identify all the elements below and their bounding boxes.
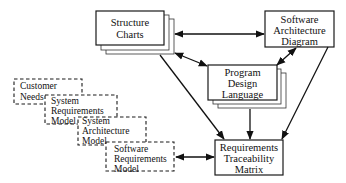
node-program-design-language: Program Design Language (208, 65, 286, 108)
label-structure-charts-2: Charts (116, 29, 143, 40)
node-requirements-traceability-matrix: Requirements Traceability Matrix (215, 140, 283, 175)
label-rtm-3: Matrix (235, 164, 264, 175)
label-pdl-3: Language (222, 89, 264, 100)
label-system-architecture-1: System (82, 116, 111, 126)
node-structure-charts: Structure Charts (96, 11, 174, 54)
label-software-architecture-2: Architecture (273, 25, 326, 36)
label-software-requirements-1: Software (114, 144, 148, 154)
label-software-requirements-3: Model (114, 164, 139, 174)
node-software-requirements-model: Software Requirements Model (106, 142, 174, 174)
diagram-canvas: Structure Charts Software Architecture D… (0, 0, 346, 183)
label-system-requirements-3: Model (51, 116, 76, 126)
label-system-requirements-1: System (51, 96, 80, 106)
label-structure-charts-1: Structure (111, 17, 150, 28)
label-system-architecture-3: Model (82, 136, 107, 146)
label-system-requirements-2: Requirements (51, 106, 104, 116)
label-rtm-1: Requirements (220, 142, 278, 153)
edge-software-architecture-to-pdl (277, 48, 296, 65)
label-software-requirements-2: Requirements (114, 154, 167, 164)
edge-software-architecture-to-rtm (282, 47, 328, 139)
label-software-architecture-1: Software (281, 14, 319, 25)
label-pdl-1: Program (224, 67, 260, 78)
label-pdl-2: Design (228, 78, 258, 89)
edge-structure-charts-to-pdl (175, 53, 207, 66)
label-software-architecture-3: Diagram (281, 36, 318, 47)
node-software-architecture-diagram: Software Architecture Diagram (265, 11, 334, 47)
label-system-architecture-2: Architecture (82, 126, 129, 136)
label-rtm-2: Traceability (224, 153, 275, 164)
label-customer-needs-1: Customer (20, 81, 58, 91)
label-customer-needs-2: Needs (20, 92, 44, 102)
